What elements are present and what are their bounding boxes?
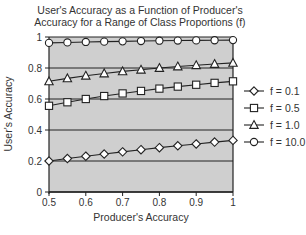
legend-label: f = 1.0 — [270, 119, 300, 131]
square-marker-icon — [250, 104, 257, 111]
square-marker-icon — [101, 92, 108, 99]
circle-marker-icon — [64, 39, 71, 46]
square-marker-icon — [64, 99, 71, 106]
x-axis-label: Producer's Accuracy — [93, 211, 189, 223]
square-marker-icon — [211, 79, 218, 86]
circle-marker-icon — [229, 37, 236, 44]
y-tick-label: 0.4 — [28, 125, 42, 136]
circle-marker-icon — [82, 38, 89, 45]
y-axis-label: User's Accuracy — [2, 76, 14, 152]
y-tick-label: 0.8 — [28, 63, 42, 74]
legend-item: f = 0.1 — [244, 85, 300, 97]
circle-marker-icon — [101, 38, 108, 45]
legend-label: f = 0.5 — [270, 102, 300, 114]
x-tick-label: 0.9 — [189, 197, 203, 208]
square-marker-icon — [82, 95, 89, 102]
y-tick-label: 0.6 — [28, 94, 42, 105]
x-tick-label: 0.6 — [79, 197, 93, 208]
plot-area — [49, 37, 233, 192]
circle-marker-icon — [250, 138, 257, 145]
square-marker-icon — [45, 102, 52, 109]
square-marker-icon — [174, 83, 181, 90]
circle-marker-icon — [211, 37, 218, 44]
y-tick-label: 1 — [36, 32, 42, 43]
y-tick-label: 0.2 — [28, 156, 42, 167]
circle-marker-icon — [156, 37, 163, 44]
legend-item: f = 10.0 — [244, 136, 305, 148]
circle-marker-icon — [174, 37, 181, 44]
plot-background — [49, 37, 233, 192]
x-tick-label: 0.5 — [42, 197, 56, 208]
legend: f = 0.1f = 0.5f = 1.0f = 10.0 — [244, 85, 305, 148]
square-marker-icon — [229, 78, 236, 85]
line-chart: 00.20.40.60.810.50.60.70.80.91 f = 0.1f … — [0, 0, 306, 235]
x-tick-label: 0.8 — [152, 197, 166, 208]
x-tick-label: 0.7 — [116, 197, 130, 208]
diamond-marker-icon — [250, 87, 258, 95]
x-tick-label: 1 — [230, 197, 236, 208]
square-marker-icon — [137, 87, 144, 94]
circle-marker-icon — [119, 38, 126, 45]
circle-marker-icon — [45, 39, 52, 46]
square-marker-icon — [119, 90, 126, 97]
legend-label: f = 0.1 — [270, 85, 300, 97]
square-marker-icon — [156, 85, 163, 92]
circle-marker-icon — [193, 37, 200, 44]
legend-item: f = 0.5 — [244, 102, 300, 114]
y-tick-label: 0 — [36, 187, 42, 198]
legend-item: f = 1.0 — [244, 119, 300, 131]
legend-label: f = 10.0 — [270, 136, 305, 148]
circle-marker-icon — [137, 37, 144, 44]
square-marker-icon — [193, 81, 200, 88]
